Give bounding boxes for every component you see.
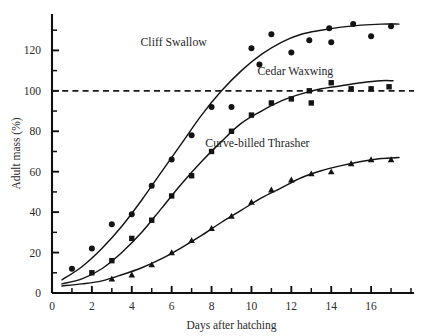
x-tick-label: 6 [169, 300, 175, 312]
data-point-circle [248, 45, 254, 51]
data-point-square [249, 112, 254, 117]
data-point-square [309, 100, 314, 105]
fitted-curves [62, 24, 399, 286]
series-label: Cliff Swallow [141, 35, 208, 49]
data-point-triangle [228, 213, 235, 219]
fitted-curve [62, 81, 393, 284]
y-tick-label: 120 [24, 44, 42, 56]
data-point-square [289, 96, 294, 101]
data-point-square [229, 129, 234, 134]
fitted-curve [62, 24, 399, 280]
data-point-circle [368, 33, 374, 39]
data-point-square [189, 173, 194, 178]
y-axis-tick-labels: 020406080100120 [24, 44, 42, 299]
x-tick-label: 2 [89, 300, 95, 312]
y-tick-label: 20 [30, 247, 42, 259]
data-point-square [129, 236, 134, 241]
data-point-circle [169, 157, 175, 163]
chart-figure: 020406080100120 0246810121416 Cliff Swal… [0, 0, 425, 336]
x-axis-title: Days after hatching [186, 319, 276, 332]
x-tick-label: 8 [209, 300, 215, 312]
data-point-circle [149, 183, 155, 189]
y-tick-label: 60 [30, 166, 42, 178]
data-point-square [109, 258, 114, 263]
data-point-circle [326, 25, 332, 31]
data-point-circle [69, 266, 75, 272]
data-point-circle [388, 23, 394, 29]
x-tick-label: 10 [246, 300, 258, 312]
data-point-square [386, 84, 391, 89]
x-tick-label: 14 [325, 300, 337, 312]
y-tick-label: 0 [35, 287, 41, 299]
data-point-square [169, 193, 174, 198]
data-point-square [307, 88, 312, 93]
data-point-square [269, 100, 274, 105]
data-point-triangle [268, 187, 275, 193]
data-point-square [368, 86, 373, 91]
x-tick-label: 4 [129, 300, 135, 312]
series-label: Curve-billed Thrasher [205, 136, 309, 150]
data-point-markers [69, 21, 394, 281]
axes-group [52, 14, 414, 293]
data-point-square [348, 86, 353, 91]
data-point-circle [328, 39, 334, 45]
y-tick-label: 100 [24, 85, 42, 97]
data-point-circle [306, 37, 312, 43]
series-label: Cedar Waxwing [257, 64, 333, 78]
growth-curve-plot: 020406080100120 0246810121416 Cliff Swal… [0, 0, 425, 336]
data-point-circle [129, 211, 135, 217]
data-point-square [89, 270, 94, 275]
data-point-circle [350, 21, 356, 27]
data-point-circle [288, 49, 294, 55]
y-axis-title: Adult mass (%) [10, 117, 23, 189]
data-point-circle [189, 132, 195, 138]
data-point-circle [209, 104, 215, 110]
data-point-triangle [288, 176, 295, 182]
x-tick-label: 0 [49, 300, 55, 312]
y-tick-label: 40 [30, 206, 42, 218]
data-point-square [329, 80, 334, 85]
data-point-circle [89, 246, 95, 252]
data-point-circle [268, 31, 274, 37]
data-point-circle [229, 104, 235, 110]
x-tick-label: 16 [365, 300, 377, 312]
data-point-circle [109, 221, 115, 227]
x-axis-tick-labels: 0246810121416 [49, 300, 377, 312]
data-point-square [149, 218, 154, 223]
y-tick-label: 80 [30, 125, 42, 137]
x-tick-label: 12 [286, 300, 298, 312]
